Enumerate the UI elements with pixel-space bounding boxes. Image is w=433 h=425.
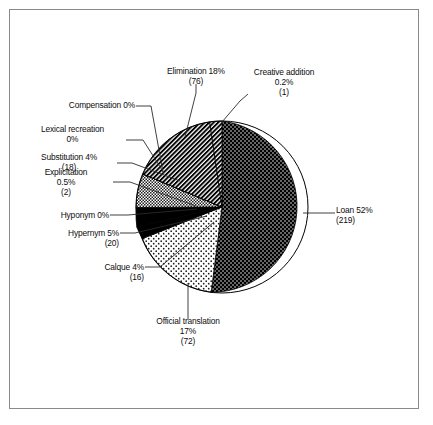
label-lexical-recreation: Lexical recreation 0% — [20, 124, 125, 144]
label-substitution-name: Substitution 4% — [22, 152, 116, 162]
leader-creative-addition — [222, 94, 248, 122]
label-creative-addition-name: Creative addition — [232, 67, 336, 77]
label-creative-addition: Creative addition 0.2% (1) — [232, 67, 336, 98]
label-lexical-recreation-percent: 0% — [20, 134, 125, 144]
label-loan-name: Loan 52% — [336, 205, 373, 215]
label-loan: Loan 52% (219) — [336, 205, 373, 225]
label-compensation: Compensation 0% — [22, 100, 135, 110]
label-hyponym-name: Hyponym 0% — [10, 210, 109, 220]
figure-canvas: Loan 52% (219) Official translation 17% … — [0, 0, 433, 425]
label-calque-count: (16) — [20, 272, 144, 282]
label-hyponym: Hyponym 0% — [10, 210, 109, 220]
label-hypernym-count: (20) — [10, 238, 119, 248]
label-official-translation: Official translation 17% (72) — [115, 316, 261, 347]
label-official-translation-name: Official translation — [115, 316, 261, 326]
label-explicitation-count: (2) — [20, 187, 112, 197]
label-official-translation-count: (72) — [115, 336, 261, 346]
label-explicitation-percent: 0.5% — [20, 177, 112, 187]
label-hypernym: Hypernym 5% (20) — [10, 228, 119, 248]
pie-slices — [136, 121, 308, 293]
label-calque: Calque 4% (16) — [20, 262, 144, 282]
label-hypernym-name: Hypernym 5% — [10, 228, 119, 238]
label-compensation-name: Compensation 0% — [22, 100, 135, 110]
label-official-translation-percent: 17% — [115, 326, 261, 336]
label-creative-addition-count: (1) — [232, 87, 336, 97]
label-creative-addition-percent: 0.2% — [232, 77, 336, 87]
label-lexical-recreation-name: Lexical recreation — [20, 124, 125, 134]
label-substitution: Substitution 4% (18) — [22, 152, 116, 172]
label-substitution-count: (18) — [22, 162, 116, 172]
label-loan-count: (219) — [336, 215, 373, 225]
label-calque-name: Calque 4% — [20, 262, 144, 272]
